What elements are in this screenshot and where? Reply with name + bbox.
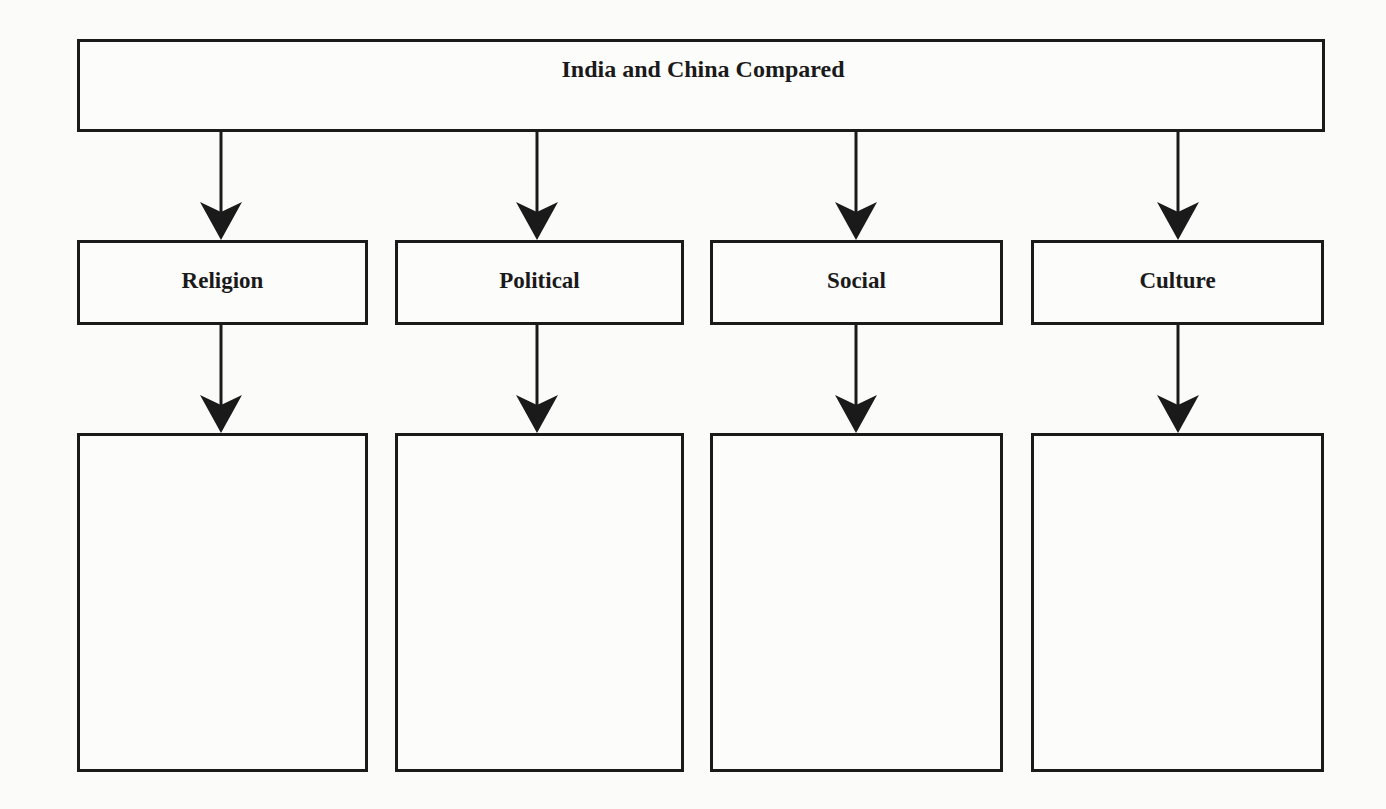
content-box-political[interactable] [395, 433, 684, 772]
content-box-religion[interactable] [77, 433, 368, 772]
arrow-title-to-culture [1157, 131, 1199, 240]
arrow-title-to-social [835, 131, 877, 240]
diagram-title: India and China Compared [562, 56, 845, 83]
category-box-religion: Religion [77, 240, 368, 325]
arrow-culture-to-content [1157, 324, 1199, 433]
category-box-social: Social [710, 240, 1003, 325]
arrow-social-to-content [835, 324, 877, 433]
arrow-title-to-political [516, 131, 558, 240]
category-label-social: Social [827, 268, 886, 294]
content-box-social[interactable] [710, 433, 1003, 772]
title-box: India and China Compared [77, 39, 1325, 132]
arrow-title-to-religion [200, 131, 242, 240]
arrow-political-to-content [516, 324, 558, 433]
category-label-political: Political [499, 268, 579, 294]
category-box-political: Political [395, 240, 684, 325]
category-label-religion: Religion [182, 268, 264, 294]
arrow-religion-to-content [200, 324, 242, 433]
category-box-culture: Culture [1031, 240, 1324, 325]
category-label-culture: Culture [1139, 268, 1215, 294]
content-box-culture[interactable] [1031, 433, 1324, 772]
